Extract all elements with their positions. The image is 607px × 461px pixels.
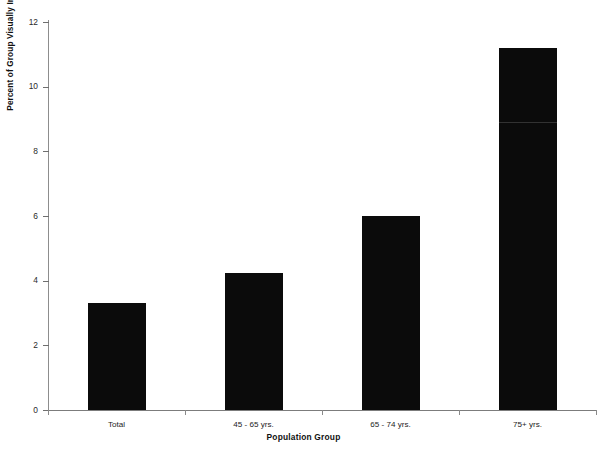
- x-tick-label: 45 - 65 yrs.: [194, 420, 314, 429]
- y-tick-mark: [43, 216, 49, 217]
- x-tick-mark: [185, 410, 186, 415]
- y-tick-mark: [43, 151, 49, 152]
- y-tick-label: 10: [16, 82, 38, 91]
- y-tick-mark: [43, 281, 49, 282]
- bar-scan-seam: [499, 122, 557, 123]
- y-tick-label: 8: [16, 147, 38, 156]
- x-tick-mark: [459, 410, 460, 415]
- x-tick-mark: [48, 410, 49, 415]
- x-tick-mark: [322, 410, 323, 415]
- y-tick-label: 0: [16, 406, 38, 415]
- bar-chart-figure: Percent of Group Visually Impaired 02468…: [0, 0, 607, 461]
- y-tick-mark: [43, 22, 49, 23]
- bar: [362, 216, 420, 410]
- y-tick-label: 4: [16, 276, 38, 285]
- x-tick-label: 65 - 74 yrs.: [331, 420, 451, 429]
- x-tick-label: 75+ yrs.: [468, 420, 588, 429]
- y-tick-label: 2: [16, 341, 38, 350]
- y-tick-label: 6: [16, 212, 38, 221]
- bar: [88, 303, 146, 410]
- y-tick-mark: [43, 345, 49, 346]
- bar: [225, 273, 283, 410]
- y-tick-label: 12: [16, 18, 38, 27]
- x-tick-label: Total: [57, 420, 177, 429]
- bar: [499, 48, 557, 410]
- x-axis-title: Population Group: [0, 432, 607, 442]
- x-tick-mark: [596, 410, 597, 415]
- y-tick-mark: [43, 87, 49, 88]
